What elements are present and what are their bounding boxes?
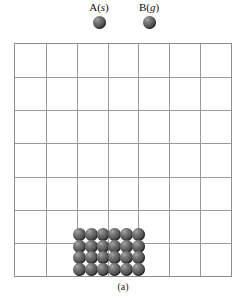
- grid-line-horizontal: [15, 77, 231, 78]
- reaction-vessel-grid: [14, 43, 232, 277]
- lattice-row: [73, 251, 144, 263]
- legend-label-b: B(g): [139, 1, 159, 13]
- lattice-row: [73, 228, 144, 240]
- figure-caption: (a): [0, 281, 246, 292]
- figure-panel-a: A(s) B(g) (a): [0, 0, 246, 305]
- lattice-row: [73, 263, 144, 275]
- grid-line-horizontal: [15, 143, 231, 144]
- legend-label-a: A(s): [89, 1, 109, 13]
- legend: A(s) B(g): [78, 1, 170, 39]
- grid-line-horizontal: [15, 110, 231, 111]
- sphere-icon-a: [93, 16, 106, 29]
- lattice-row: [73, 240, 144, 252]
- grid-line-horizontal: [15, 177, 231, 178]
- solid-A-lattice: [73, 228, 144, 275]
- grid-line-vertical: [169, 44, 170, 276]
- legend-item-a: A(s): [78, 1, 120, 29]
- particle-a: [85, 263, 98, 276]
- particle-a: [73, 263, 86, 276]
- grid-line-horizontal: [15, 210, 231, 211]
- sphere-icon-b: [143, 16, 156, 29]
- particle-a: [132, 263, 145, 276]
- legend-item-b: B(g): [128, 1, 170, 29]
- grid-line-vertical: [46, 44, 47, 276]
- grid-line-vertical: [200, 44, 201, 276]
